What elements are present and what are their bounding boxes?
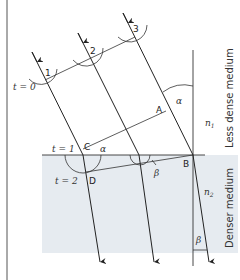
point-3-label: 3 bbox=[133, 24, 139, 34]
time-label-t2: t = 2 bbox=[55, 176, 78, 186]
incident-wavefront bbox=[45, 37, 135, 80]
wavefront-ca bbox=[83, 111, 166, 149]
point-d-label: D bbox=[89, 176, 96, 186]
wavelet-arc-2 bbox=[73, 48, 103, 66]
n1-label: n1 bbox=[205, 118, 215, 129]
time-label-t0: t = 0 bbox=[13, 82, 36, 92]
beta-label-interface: β bbox=[153, 168, 159, 178]
point-b-label: B bbox=[183, 159, 189, 169]
beta-label-bottom: β bbox=[195, 235, 201, 245]
denser-medium-region bbox=[42, 155, 238, 253]
refraction-diagram: 1 2 3 t = 0 t = 1 t = 2 A B C D α α β β … bbox=[0, 0, 240, 280]
less-dense-medium-label: Less dense medium bbox=[224, 48, 235, 148]
point-a-label: A bbox=[156, 105, 163, 115]
time-label-t1: t = 1 bbox=[52, 144, 75, 154]
alpha-label-top: α bbox=[176, 96, 182, 106]
point-1-label: 1 bbox=[45, 68, 51, 78]
point-2-label: 2 bbox=[90, 46, 96, 56]
point-c-label: C bbox=[84, 142, 90, 152]
alpha-label-c: α bbox=[100, 144, 106, 154]
denser-medium-label: Denser medium bbox=[224, 168, 235, 248]
alpha-arc-top bbox=[163, 85, 193, 92]
